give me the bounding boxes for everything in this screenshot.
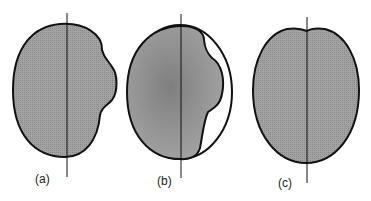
panel-label-c: (c) (278, 176, 292, 190)
blob-shape-b (127, 26, 223, 159)
figure-canvas (0, 0, 371, 201)
panel-c (253, 17, 359, 183)
blob-shape-a (13, 24, 117, 157)
panel-label-a: (a) (35, 172, 50, 186)
oval-shape-c (253, 28, 359, 163)
panel-b (127, 14, 232, 178)
panel-a (13, 13, 117, 177)
panel-label-b: (b) (157, 174, 172, 188)
